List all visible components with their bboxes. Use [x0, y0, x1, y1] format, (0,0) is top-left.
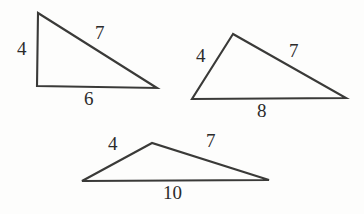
triangle-2-outline — [192, 34, 346, 99]
triangle-3-base-label: 10 — [163, 183, 182, 202]
figure-canvas: 4 7 6 4 7 8 4 7 10 — [0, 0, 364, 214]
triangle-1-left-side-label: 4 — [17, 39, 27, 58]
triangle-1-hypotenuse-label: 7 — [95, 23, 105, 42]
triangle-3-right-side-label: 7 — [206, 131, 216, 150]
triangles-diagram — [0, 0, 364, 214]
triangle-2-base-label: 8 — [257, 101, 267, 120]
triangle-2-right-side-label: 7 — [289, 41, 299, 60]
triangle-1-base-label: 6 — [84, 89, 94, 108]
triangle-3-left-side-label: 4 — [108, 134, 118, 153]
triangle-2-left-side-label: 4 — [196, 46, 206, 65]
